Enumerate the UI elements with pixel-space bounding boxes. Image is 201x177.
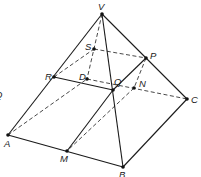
label-R: R <box>45 71 52 82</box>
partial-left-label: Q <box>0 89 3 100</box>
point-P <box>144 56 148 60</box>
label-S: S <box>85 41 92 52</box>
visible-edges <box>8 14 187 167</box>
label-Q: Q <box>114 76 122 87</box>
hidden-edges <box>8 14 187 151</box>
edge-NM <box>67 88 134 151</box>
vertices <box>6 12 189 169</box>
pyramid-diagram: VSPRDQNCAMB Q <box>0 0 201 177</box>
label-D: D <box>79 71 86 82</box>
edge-RS <box>54 49 94 77</box>
edge-BC <box>123 99 187 167</box>
point-Q <box>111 88 115 92</box>
edge-AD <box>8 79 87 135</box>
point-V <box>100 12 104 16</box>
point-C <box>185 97 189 101</box>
point-S <box>92 47 96 51</box>
label-P: P <box>150 50 157 61</box>
label-A: A <box>3 138 10 149</box>
point-A <box>6 133 10 137</box>
label-V: V <box>98 1 106 12</box>
label-M: M <box>60 153 68 164</box>
label-B: B <box>119 169 126 177</box>
edge-DC <box>87 79 187 99</box>
vertex-labels: VSPRDQNCAMB <box>3 1 198 177</box>
point-N <box>132 86 136 90</box>
point-R <box>52 75 56 79</box>
label-N: N <box>139 78 146 89</box>
label-C: C <box>191 94 198 105</box>
edge-QM <box>67 90 113 151</box>
